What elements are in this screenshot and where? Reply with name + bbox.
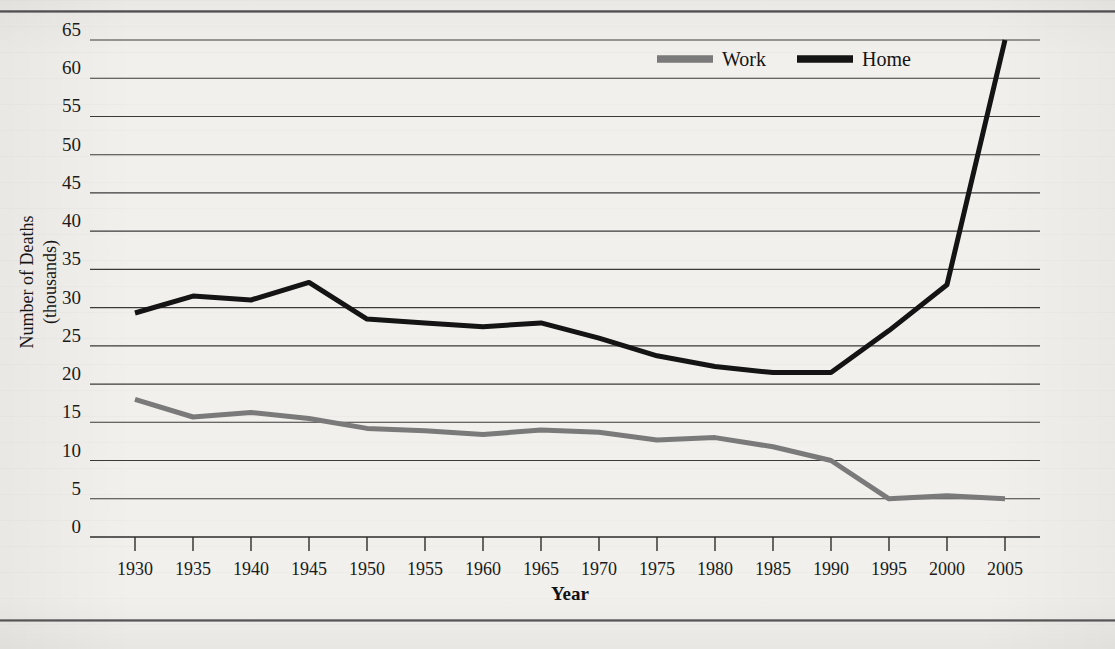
- series-line-work: [135, 399, 1005, 498]
- chart-canvas: 05101520253035404550556065 1930193519401…: [0, 0, 1115, 649]
- x-axis-title: Year: [551, 583, 590, 604]
- x-axis-tick-label: 1970: [581, 559, 617, 579]
- y-axis-tick-label: 15: [62, 401, 81, 422]
- x-axis-tick-label: 1975: [639, 559, 675, 579]
- x-axis-tick-label: 1965: [523, 559, 559, 579]
- x-axis-tick-label: 1990: [813, 559, 849, 579]
- series-line-home: [135, 40, 1005, 373]
- x-axis-tick-label: 1955: [407, 559, 443, 579]
- x-axis-tick-label: 2000: [929, 559, 965, 579]
- x-axis: [90, 537, 1040, 551]
- y-axis-tick-label: 60: [62, 57, 81, 78]
- legend-label-home: Home: [862, 48, 911, 70]
- x-axis-tick-label: 1995: [871, 559, 907, 579]
- y-axis-tick-label: 55: [62, 95, 81, 116]
- y-axis-title-line2: (thousands): [40, 240, 61, 324]
- x-axis-tick-label: 2005: [987, 559, 1023, 579]
- y-axis-tick-label: 40: [62, 210, 81, 231]
- y-axis-tick-label: 10: [62, 440, 81, 461]
- x-axis-tick-label: 1960: [465, 559, 501, 579]
- y-axis-tick-label: 0: [72, 516, 82, 537]
- y-axis-title-line1: Number of Deaths: [17, 216, 37, 349]
- y-axis-tick-label: 50: [62, 134, 81, 155]
- chart-legend: WorkHome: [657, 48, 911, 70]
- y-axis-tick-label: 20: [62, 363, 81, 384]
- y-axis-tick-label: 65: [62, 19, 81, 40]
- y-axis-tick-label: 45: [62, 172, 81, 193]
- x-axis-tick-label: 1950: [349, 559, 385, 579]
- y-axis-tick-labels: 05101520253035404550556065: [62, 19, 81, 537]
- x-axis-tick-label: 1930: [117, 559, 153, 579]
- y-axis-tick-label: 5: [72, 478, 82, 499]
- legend-label-work: Work: [722, 48, 766, 70]
- x-axis-tick-label: 1935: [175, 559, 211, 579]
- y-axis-tick-label: 30: [62, 287, 81, 308]
- x-axis-tick-label: 1945: [291, 559, 327, 579]
- x-axis-tick-label: 1980: [697, 559, 733, 579]
- x-axis-tick-label: 1985: [755, 559, 791, 579]
- x-axis-tick-labels: 1930193519401945195019551960196519701975…: [117, 559, 1023, 579]
- y-axis-tick-label: 35: [62, 248, 81, 269]
- y-axis-title: Number of Deaths (thousands): [17, 216, 61, 349]
- y-axis-tick-label: 25: [62, 325, 81, 346]
- x-axis-tick-label: 1940: [233, 559, 269, 579]
- line-chart-figure: 05101520253035404550556065 1930193519401…: [0, 0, 1115, 649]
